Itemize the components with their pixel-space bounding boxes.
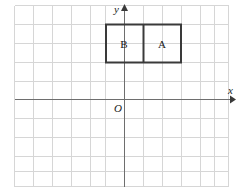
rectangle-label-a: A (158, 38, 166, 50)
y-axis-label: y (113, 3, 119, 15)
x-axis-arrowhead (230, 96, 236, 104)
coordinate-plane-svg: B A O x y (0, 0, 240, 196)
coordinate-grid-figure: B A O x y (0, 0, 240, 196)
x-axis-label: x (227, 84, 233, 96)
axis-arrowheads (121, 4, 236, 104)
rectangle-label-b: B (120, 38, 127, 50)
origin-label: O (114, 102, 122, 114)
axes (15, 9, 231, 187)
grid-lines (15, 6, 229, 187)
